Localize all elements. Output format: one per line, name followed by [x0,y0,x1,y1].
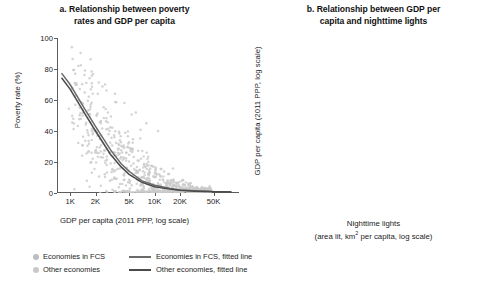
panel-b-y-axis-title: GDP per capita (2011 PPP, log scale) [253,26,262,196]
x-tick [214,193,215,196]
x-tick-label: 10K [148,197,162,206]
x-tick-label: 1K [65,197,74,206]
panel-a-fitted-lines [57,38,239,193]
x-tick-label: 20K [173,197,187,206]
legend-marker-label: Economies in FCS [43,250,129,263]
panel-b-x-axis-title-line2: (area lit, km2 per capita, log scale) [249,230,498,241]
y-tick-label: 60 [45,96,53,105]
panel-a-title: a. Relationship between poverty rates an… [0,4,249,27]
y-tick [54,38,57,39]
panel-b-x-axis-title-line1: Nighttime lights [249,219,498,228]
x-tick [70,193,71,196]
legend-line-icon [129,256,151,258]
y-tick-label: 100 [40,34,53,43]
panel-a-title-line2: rates and GDP per capita [0,16,249,28]
x-tick-label: 5K [124,197,133,206]
panel-a-x-axis-title: GDP per capita (2011 PPP, log scale) [0,216,249,225]
y-tick [54,162,57,163]
y-tick [54,131,57,132]
y-tick [54,100,57,101]
legend-marker-icon [33,267,39,273]
x-tick-label: 2K [91,197,100,206]
y-tick-label: 0 [49,189,53,198]
y-tick-label: 80 [45,65,53,74]
legend-line-label: Other economies, fitted line [156,263,247,276]
y-tick [54,193,57,194]
x-tick [96,193,97,196]
legend-row: Economies in FCS Economies in FCS, fitte… [33,250,252,263]
panel-b: b. Relationship between GDP per capita a… [249,0,498,248]
panel-a-title-line1: a. Relationship between poverty [0,4,249,16]
legend-line-icon [129,269,151,271]
panel-a: a. Relationship between poverty rates an… [0,0,249,248]
y-tick [54,69,57,70]
legend-marker-icon [33,254,39,260]
panel-b-title-line1: b. Relationship between GDP per [249,4,498,16]
figure-legend: Economies in FCS Economies in FCS, fitte… [33,250,252,276]
panel-b-title: b. Relationship between GDP per capita a… [249,4,498,27]
legend-line-label: Economies in FCS, fitted line [156,250,252,263]
panel-b-title-line2: capita and nighttime lights [249,16,498,28]
legend-marker-label: Other economies [43,263,129,276]
x-tick [180,193,181,196]
figure-container: a. Relationship between poverty rates an… [0,0,498,286]
panel-a-plot-area: 0204060801001K2K5K10K20K50K [57,38,239,193]
panel-a-y-axis-title: Poverty rate (%) [13,45,22,155]
legend-row: Other economies Other economies, fitted … [33,263,252,276]
y-tick-label: 40 [45,127,53,136]
x-tick-label: 50K [207,197,221,206]
y-tick-label: 20 [45,158,53,167]
x-tick [155,193,156,196]
x-tick [129,193,130,196]
